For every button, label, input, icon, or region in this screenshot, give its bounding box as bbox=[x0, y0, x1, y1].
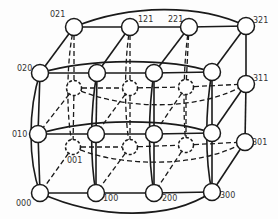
node-label-020: 020 bbox=[17, 64, 32, 73]
node-201 bbox=[179, 138, 194, 153]
node-label-100: 100 bbox=[103, 194, 118, 203]
node-210 bbox=[146, 126, 163, 143]
grid-edges bbox=[38, 26, 246, 193]
node-300 bbox=[204, 184, 221, 201]
node-label-001: 001 bbox=[67, 156, 82, 165]
graph-canvas: 021121221321020311010001301000100200300 bbox=[0, 0, 278, 219]
node-101 bbox=[123, 140, 138, 155]
node-321 bbox=[238, 18, 255, 35]
node-311 bbox=[238, 76, 255, 93]
node-100 bbox=[88, 185, 105, 202]
torus-grid-diagram: 021121221321020311010001301000100200300 bbox=[0, 0, 278, 219]
node-020 bbox=[32, 65, 49, 82]
node-310 bbox=[204, 125, 221, 142]
node-000 bbox=[32, 185, 49, 202]
node-label-200: 200 bbox=[162, 194, 177, 203]
node-label-000: 000 bbox=[16, 199, 31, 208]
node-211 bbox=[179, 80, 194, 95]
node-label-010: 010 bbox=[12, 130, 27, 139]
wrap-edge bbox=[73, 142, 245, 162]
node-301 bbox=[237, 134, 254, 151]
node-200 bbox=[146, 185, 163, 202]
node-120 bbox=[89, 65, 106, 82]
node-label-321: 321 bbox=[253, 16, 268, 25]
wrap-edge bbox=[74, 84, 246, 105]
node-021 bbox=[66, 19, 83, 36]
wrap-edge bbox=[74, 10, 246, 27]
node-label-300: 300 bbox=[220, 191, 235, 200]
edge-111-211 bbox=[130, 87, 186, 88]
node-label-121: 121 bbox=[138, 15, 153, 24]
node-label-311: 311 bbox=[253, 74, 268, 83]
graph-nodes bbox=[30, 18, 255, 202]
node-001 bbox=[66, 140, 81, 155]
node-label-301: 301 bbox=[252, 138, 267, 147]
node-label-021: 021 bbox=[50, 10, 65, 19]
node-320 bbox=[204, 64, 221, 81]
node-110 bbox=[88, 126, 105, 143]
node-220 bbox=[146, 65, 163, 82]
node-121 bbox=[122, 19, 139, 36]
edge-101-201 bbox=[130, 145, 186, 147]
wraparound-edges bbox=[31, 10, 246, 214]
node-011 bbox=[67, 81, 82, 96]
node-111 bbox=[123, 81, 138, 96]
node-label-221: 221 bbox=[168, 15, 183, 24]
wrap-edge bbox=[40, 192, 212, 213]
node-labels: 021121221321020311010001301000100200300 bbox=[12, 10, 268, 208]
node-010 bbox=[30, 126, 47, 143]
edge-011-001 bbox=[73, 88, 74, 147]
